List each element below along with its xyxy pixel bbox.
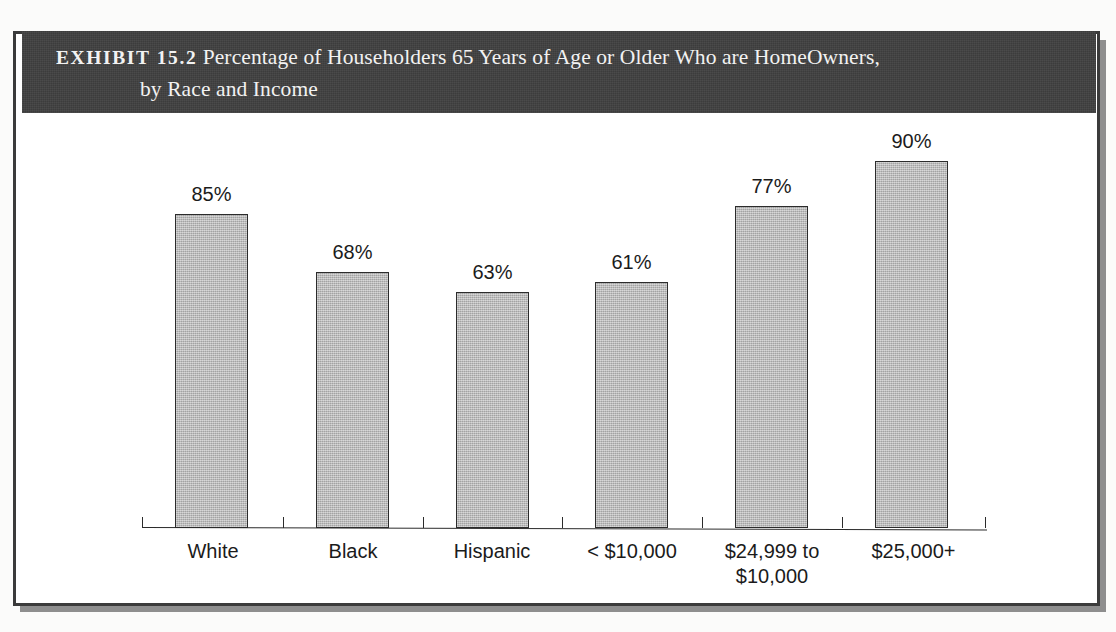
x-axis-label-25000-plus: $25,000+ xyxy=(842,539,985,564)
x-axis-line xyxy=(142,527,987,531)
bar-under-10k xyxy=(595,282,668,528)
x-axis-label-under-10k: < $10,000 xyxy=(562,539,702,564)
exhibit-number-label: EXHIBIT 15.2 xyxy=(56,47,197,68)
x-axis-tick xyxy=(842,517,843,528)
x-axis-tick xyxy=(562,517,563,528)
chart-plot-area: 85% 68% 63% 61% 77% 90% White Black Hisp… xyxy=(13,113,1100,606)
exhibit-figure: EXHIBIT 15.2 Percentage of Householders … xyxy=(0,0,1116,632)
x-axis-label-white: White xyxy=(143,539,283,564)
exhibit-title-text: Percentage of Householders 65 Years of A… xyxy=(203,45,880,69)
bar-25000-plus xyxy=(875,161,948,528)
exhibit-subtitle-text: by Race and Income xyxy=(140,77,318,101)
x-axis-tick xyxy=(985,517,986,528)
bar-value-label: 90% xyxy=(875,130,948,153)
x-axis-tick xyxy=(283,517,284,528)
bar-value-label: 77% xyxy=(735,175,808,198)
bar-hispanic xyxy=(456,292,529,528)
exhibit-title-line-2: by Race and Income xyxy=(140,77,318,102)
bar-white xyxy=(175,214,248,528)
x-axis-label-hispanic: Hispanic xyxy=(422,539,562,564)
exhibit-title-line-1: EXHIBIT 15.2 Percentage of Householders … xyxy=(56,45,880,70)
x-axis-tick xyxy=(702,517,703,528)
bar-value-label: 63% xyxy=(456,261,529,284)
x-axis-tick xyxy=(423,517,424,528)
bar-value-label: 68% xyxy=(316,241,389,264)
x-axis-label-line-1: $24,999 to xyxy=(702,539,842,564)
x-axis-label-line-2: $10,000 xyxy=(702,564,842,589)
bar-value-label: 61% xyxy=(595,251,668,274)
x-axis-tick xyxy=(142,517,143,528)
exhibit-header-band: EXHIBIT 15.2 Percentage of Householders … xyxy=(22,31,1096,113)
x-axis-label-black: Black xyxy=(283,539,423,564)
bar-24999-to-10000 xyxy=(735,206,808,528)
bar-value-label: 85% xyxy=(175,183,248,206)
x-axis-label-24999-to-10000: $24,999 to $10,000 xyxy=(702,539,842,589)
bar-black xyxy=(316,272,389,528)
